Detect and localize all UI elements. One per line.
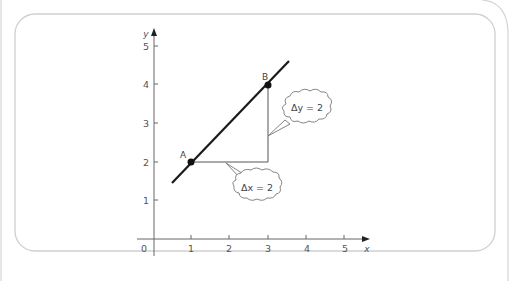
point-b-label: B [262,72,268,82]
y-tick-label-2: 2 [143,157,149,168]
y-tick-label-4: 4 [143,79,149,90]
figure-container: 0 1 2 3 4 5 x 5 4 3 2 1 y A B Δy = 2 [0,0,511,281]
point-a-label: A [180,150,187,160]
x-tick-label-3: 3 [265,243,271,254]
origin-label: 0 [141,243,147,254]
delta-x-text: Δx = 2 [241,182,273,193]
x-tick-label-1: 1 [188,243,194,254]
point-b-marker [265,82,272,89]
point-a-marker [188,159,195,166]
x-tick-label-2: 2 [226,243,232,254]
x-tick-label-5: 5 [342,243,348,254]
y-tick-label-3: 3 [143,118,149,129]
delta-y-text: Δy = 2 [291,102,323,113]
y-tick-label-1: 1 [143,195,149,206]
x-axis-label: x [363,244,370,254]
y-tick-label-5: 5 [143,41,149,52]
inner-panel [15,14,495,251]
x-tick-label-4: 4 [304,243,310,254]
y-axis-label: y [142,29,149,39]
